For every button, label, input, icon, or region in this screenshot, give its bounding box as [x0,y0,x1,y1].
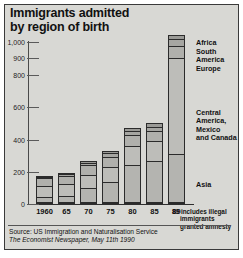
chart-source: Source: US Immigration and Naturalisatio… [9,228,174,244]
y-tick-label-400: 400 [1,137,25,144]
x-axis-label-80: 80 [128,207,136,216]
legend-item-south-america: South America [196,48,240,65]
bar-segment-asia [37,198,52,203]
x-axis-label-75: 75 [106,207,114,216]
bar-80: 80 [124,128,141,204]
y-tick-label-900: 900 [1,55,25,62]
x-axis-label-65: 65 [62,207,70,216]
bar-segment-central-america [103,168,118,183]
bar-segment-central-america [37,187,52,198]
chart-title-line-2: by region of birth [10,21,170,35]
bar-segment-europe [103,158,118,168]
x-axis-label-1960: 1960 [36,207,53,216]
legend-label-central-4: and Canada [196,134,240,142]
y-tick-label-200: 200 [1,169,25,176]
bar-segment-asia [81,189,96,203]
bar-segment-asia [169,155,184,203]
legend-item-central-america: Central America, Mexico and Canada [196,109,240,143]
x-axis-label-70: 70 [84,207,92,216]
y-tick-label-600: 600 [1,104,25,111]
x-axis-label-85: 85 [150,207,158,216]
y-tick-label-1000: 1,000 [1,39,25,46]
bar-segment-asia [103,183,118,203]
bar-segment-europe [81,166,96,175]
bar-1960: 1960 [36,176,53,204]
bar-65: 65 [58,173,75,204]
y-tick-label-800: 800 [1,72,25,79]
chart-annotation: 89 includes illegal immigrants granted a… [172,208,240,230]
legend-item-asia: Asia [196,181,240,189]
annotation-line-3: granted amnesty [172,223,240,230]
x-axis-line [28,204,194,205]
bar-75: 75 [102,151,119,204]
bar-segment-asia [59,197,74,203]
chart-legend: Africa South America Europe Central Amer… [196,41,240,205]
annotation-line-2: immigrants [172,215,240,222]
bar-70: 70 [80,161,97,204]
bar-segment-central-america [59,185,74,197]
chart-title: Immigrants admitted by region of birth [10,7,170,34]
footer-divider [8,225,230,226]
bar-segment-europe [169,47,184,59]
bar-85: 85 [146,123,163,204]
legend-label-europe: Europe [196,65,240,73]
bar-segment-europe [125,136,140,146]
y-axis-line [28,41,29,205]
bar-segment-central-america [169,59,184,155]
legend-label-asia: Asia [196,181,240,189]
bar-segment-asia [125,166,140,202]
bar-segment-central-america [147,142,162,163]
bar-segment-central-america [125,147,140,167]
chart-figure: Immigrants admitted by region of birth 1… [0,0,243,258]
source-line-1: Source: US Immigration and Naturalisatio… [9,228,174,236]
bar-segment-asia [147,162,162,203]
source-line-2: The Economist Newspaper, May 11th 1990 [9,236,174,244]
legend-item-europe: Europe [196,65,240,73]
bar-segment-central-america [81,176,96,189]
annotation-line-1: 89 includes illegal [172,208,240,215]
chart-title-line-1: Immigrants admitted [10,7,170,21]
y-tick-label-0: 0 [1,201,25,208]
bar-89: 89 [168,35,185,204]
bar-segment-europe [37,179,52,186]
plot-area: 1,000 900 800 600 400 200 0 196065707580… [28,41,194,205]
bar-segment-europe [59,177,74,185]
bar-segment-europe [147,132,162,142]
